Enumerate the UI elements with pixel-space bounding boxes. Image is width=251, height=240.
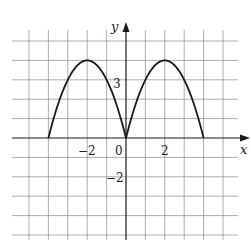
function-graph: x y −2 0 2 3 −2 — [0, 0, 251, 240]
y-axis-label: y — [110, 19, 119, 34]
x-axis-arrow-icon — [240, 135, 250, 142]
x-tick-label-2: 2 — [161, 144, 169, 158]
x-axis-label: x — [240, 142, 248, 157]
y-tick-label-3: 3 — [113, 77, 121, 91]
y-axis-arrow-icon — [123, 22, 130, 32]
x-tick-label-neg2: −2 — [78, 144, 96, 158]
y-tick-label-neg2: −2 — [106, 171, 124, 185]
origin-label: 0 — [115, 144, 123, 158]
